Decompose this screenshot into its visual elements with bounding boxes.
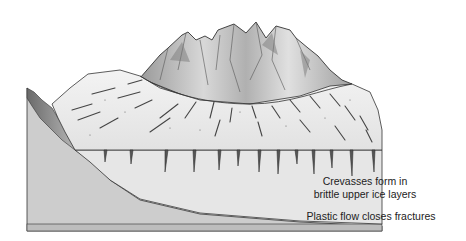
crevasses-label-line2: brittle upper ice layers [290,188,440,201]
crevasses-label-line1: Crevasses form in [290,175,440,188]
plastic-flow-label: Plastic flow closes fractures [296,210,446,223]
glacier-diagram [0,0,466,241]
crevasses-label: Crevasses form in brittle upper ice laye… [290,175,440,201]
base-strip [27,224,382,231]
